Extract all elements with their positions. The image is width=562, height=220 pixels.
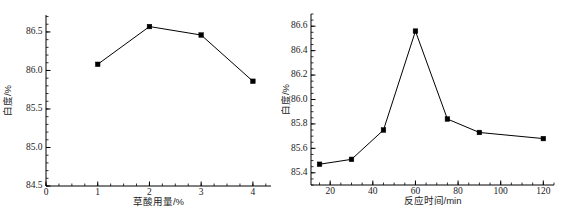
chart-panel-left: 84.585.085.586.086.501234草酸用量/%白度/% (0, 0, 281, 220)
x-axis-title: 草酸用量/% (133, 196, 185, 207)
y-axis-tick-label: 85.5 (26, 103, 43, 113)
x-axis-tick-label: 40 (368, 186, 378, 196)
x-axis-tick-label: 3 (199, 187, 204, 197)
y-axis-tick-label: 86.6 (291, 20, 308, 30)
data-point-marker (95, 62, 100, 67)
x-axis-tick-label: 120 (536, 186, 551, 196)
data-point-marker (477, 130, 482, 135)
data-point-marker (317, 162, 322, 167)
chart-svg-right: 85.485.685.886.086.286.486.6204060801001… (281, 0, 562, 220)
y-axis-tick-label: 85.0 (26, 142, 43, 152)
x-axis-title: 反应时间/min (404, 195, 462, 206)
data-point-marker (381, 128, 386, 133)
data-point-marker (445, 117, 450, 122)
data-point-marker (541, 136, 546, 141)
data-point-marker (147, 24, 152, 29)
chart-svg-left: 84.585.085.586.086.501234草酸用量/%白度/% (0, 0, 281, 220)
x-axis-tick-label: 4 (251, 187, 256, 197)
y-axis-tick-label: 86.4 (291, 45, 308, 55)
y-axis-title: 白度/% (281, 83, 291, 115)
x-axis-tick-label: 0 (44, 187, 49, 197)
y-axis-tick-label: 85.6 (291, 143, 308, 153)
x-axis-tick-label: 1 (95, 187, 100, 197)
y-axis-tick-label: 86.0 (26, 65, 43, 75)
y-axis-tick-label: 85.8 (291, 118, 308, 128)
data-point-marker (251, 79, 256, 84)
chart-panel-right: 85.485.685.886.086.286.486.6204060801001… (281, 0, 562, 220)
y-axis-tick-label: 86.5 (26, 26, 43, 36)
y-axis-tick-label: 84.5 (26, 180, 43, 190)
data-point-marker (349, 157, 354, 162)
series-line-whiteness (98, 27, 253, 82)
y-axis-tick-label: 86.2 (291, 69, 308, 79)
figure-container: 84.585.085.586.086.501234草酸用量/%白度/% 85.4… (0, 0, 562, 220)
y-axis-tick-label: 85.4 (291, 167, 308, 177)
x-axis-tick-label: 20 (325, 186, 335, 196)
data-point-marker (199, 33, 204, 38)
y-axis-title: 白度/% (2, 84, 13, 116)
data-point-marker (413, 29, 418, 34)
x-axis-tick-label: 100 (494, 186, 509, 196)
series-line-whiteness (320, 31, 544, 164)
y-axis-tick-label: 86.0 (291, 94, 308, 104)
